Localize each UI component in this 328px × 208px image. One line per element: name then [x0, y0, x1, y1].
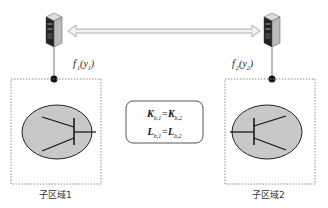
transistor-symbol-2: [230, 105, 302, 159]
equation-line-2: Lb,1=Lb,2: [126, 125, 203, 143]
server-2-label: f'2(y2): [232, 58, 253, 71]
bidirectional-arrow: [68, 25, 260, 37]
equation-box: Kb,1=Kb,2 Lb,1=Lb,2: [126, 107, 203, 143]
transistor-symbol-1: [22, 105, 96, 159]
sub-region-2-label: 子区域2: [252, 188, 285, 201]
diagram-canvas: [0, 0, 328, 208]
server-icon: [264, 13, 280, 47]
server-1-label: f'1(y1): [73, 58, 94, 71]
server-icon: [46, 13, 62, 47]
sub-region-1-label: 子区域1: [39, 188, 72, 201]
equation-line-1: Kb,1=Kb,2: [126, 107, 203, 125]
